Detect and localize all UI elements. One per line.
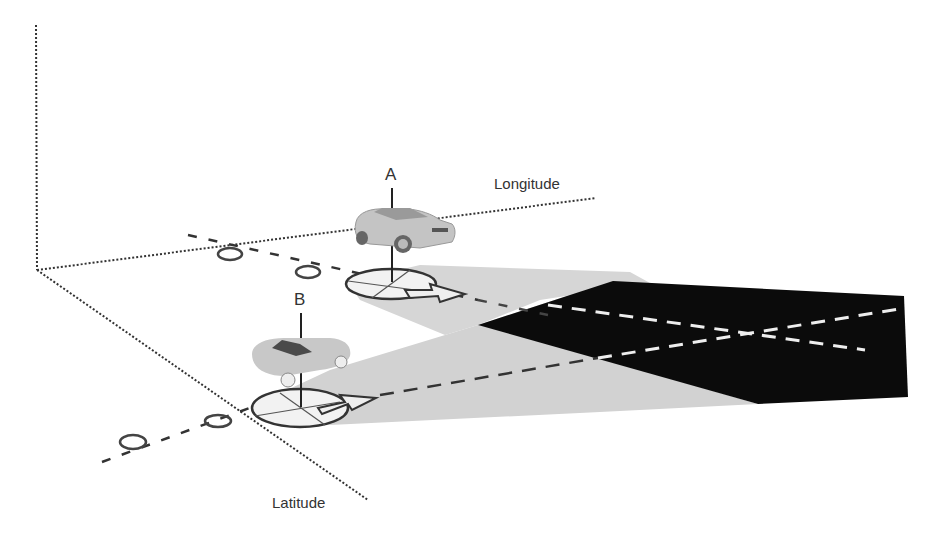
- waypoint-b1: [120, 435, 146, 449]
- longitude-axis: [37, 198, 596, 270]
- longitude-label: Longitude: [494, 175, 560, 192]
- vehicle-b-label: B: [294, 290, 305, 310]
- waypoint-a2: [296, 266, 320, 278]
- vertical-axis: [36, 25, 37, 270]
- latitude-label: Latitude: [272, 494, 325, 511]
- waypoint-a1: [218, 248, 242, 260]
- vehicle-a-label: A: [385, 165, 396, 185]
- diagram-canvas: A B Longitude Latitude: [0, 0, 934, 540]
- waypoint-b2: [205, 415, 231, 427]
